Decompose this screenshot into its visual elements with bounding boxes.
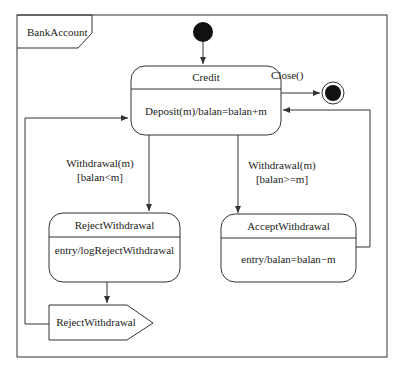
state-reject-activity: entry/logRejectWithdrawal [49,244,180,257]
initial-node [193,22,213,42]
frame-title: BankAccount [27,26,87,39]
final-node [325,85,341,101]
transition-reject-label-1: Withdrawal(m) [60,157,140,170]
transition-accept-label-2: [balan>=m] [242,173,322,186]
transition-reject-label-2: [balan<m] [60,171,140,184]
state-credit-name: Credit [131,71,281,84]
state-reject-name: RejectWithdrawal [49,219,180,232]
state-accept-name: AcceptWithdrawal [221,220,356,233]
transition-accept-label-1: Withdrawal(m) [242,159,322,172]
state-credit-activity: Deposit(m)/balan=balan+m [131,105,281,118]
state-accept-activity: entry/balan=balan−m [221,253,356,266]
transition-close-label: Close() [271,69,303,82]
signal-label: RejectWithdrawal [49,316,143,329]
